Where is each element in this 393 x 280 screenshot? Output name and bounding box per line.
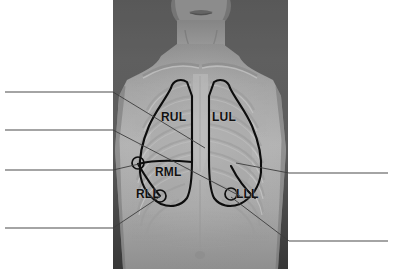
lobe-label-rll: RLL [136,188,160,200]
torso-photograph: RUL LUL RML RLL LLL [113,0,288,269]
lobe-label-lll: LLL [236,188,259,200]
lung-lobes-labeling-figure: RUL LUL RML RLL LLL [0,0,393,280]
lobe-label-lul: LUL [212,111,236,123]
lobe-label-rml: RML [155,166,182,178]
lobe-label-rul: RUL [161,111,186,123]
torso-photo-artwork [113,0,288,269]
